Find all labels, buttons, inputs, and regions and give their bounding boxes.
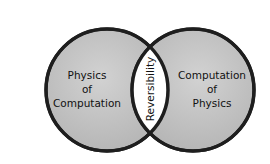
intersection-label: Reversibility <box>144 57 156 121</box>
left-label-line-2: of <box>82 83 92 95</box>
right-label-line-1: Computation <box>178 69 246 81</box>
right-label-line-2: of <box>207 83 217 95</box>
right-label-line-3: Physics <box>193 97 232 109</box>
left-label-line-1: Physics <box>68 69 107 81</box>
left-label-line-3: Computation <box>53 97 121 109</box>
venn-diagram: Physics of Computation Computation of Ph… <box>0 0 270 164</box>
